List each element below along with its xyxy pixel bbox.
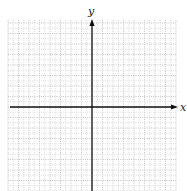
x-axis-arrow-icon [171, 104, 178, 109]
coordinate-plane: x y [0, 0, 187, 191]
y-axis [89, 19, 94, 191]
x-axis [10, 104, 178, 109]
y-axis-arrow-icon [89, 19, 94, 26]
y-axis-label: y [87, 5, 95, 18]
x-axis-label: x [180, 101, 187, 114]
